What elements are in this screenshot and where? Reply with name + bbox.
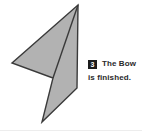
- caption-text-first-line: The Bow: [102, 59, 136, 69]
- bow-polygon: [12, 5, 78, 122]
- caption-line-one: 3 The Bow: [88, 58, 142, 70]
- caption-block: 3 The Bow is finished.: [88, 58, 142, 83]
- origami-step-figure: 3 The Bow is finished.: [0, 0, 142, 132]
- bottom-divider: [0, 130, 142, 131]
- step-number-badge: 3: [88, 60, 97, 69]
- caption-text-second-line: is finished.: [88, 73, 142, 83]
